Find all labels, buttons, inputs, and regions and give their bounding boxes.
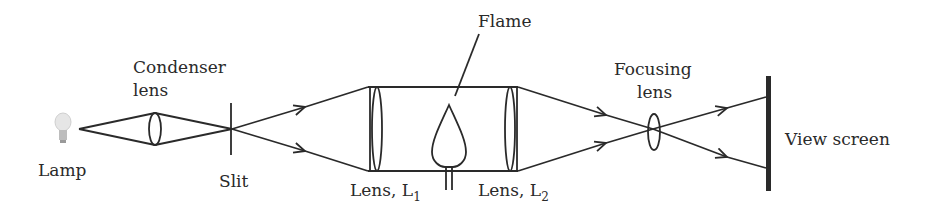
lens-l2	[505, 87, 515, 171]
parallel-beam	[368, 87, 518, 171]
lamp-icon	[55, 113, 71, 143]
lens1-label: Lens, L1	[350, 180, 421, 204]
rays-lamp-condenser	[79, 113, 232, 145]
flame-icon	[432, 105, 466, 190]
flame-label: Flame	[478, 11, 532, 31]
focusing-label-line2: lens	[637, 82, 672, 102]
focusing-label-line1: Focusing	[614, 59, 692, 79]
rays-focusing-screen	[653, 97, 766, 168]
rays-slit-lens1	[232, 87, 368, 171]
optical-diagram: Lamp Condenser lens Slit Lens, L1 Lens, …	[0, 0, 926, 213]
view-screen-label: View screen	[784, 129, 890, 149]
condenser-lens	[149, 113, 161, 145]
lens2-label: Lens, L2	[478, 180, 549, 204]
view-screen	[766, 76, 771, 191]
rays-lens2-focusing	[518, 87, 653, 171]
slit-label: Slit	[219, 171, 249, 191]
condenser-label-line1: Condenser	[133, 57, 227, 77]
lamp-label: Lamp	[38, 160, 87, 180]
condenser-label-line2: lens	[133, 80, 168, 100]
focusing-lens	[648, 114, 660, 150]
lens-l1	[372, 87, 382, 171]
